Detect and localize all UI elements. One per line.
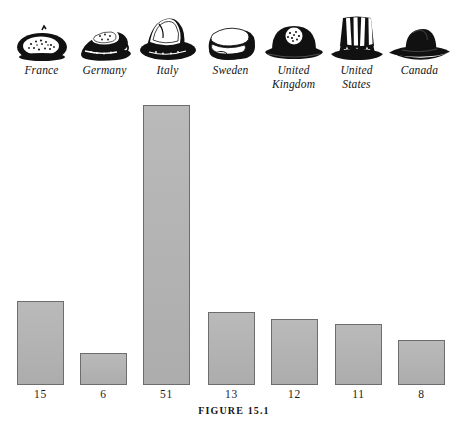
category-column-italy: Italy [136,0,199,100]
bar-italy [143,105,190,385]
figure-caption: FIGURE 15.1 [0,405,468,416]
flat-cap-hat-icon [199,2,262,64]
value-label-canada: 8 [390,386,453,402]
category-column-canada: Canada [388,0,451,100]
beret-hat-icon [10,2,73,64]
category-column-germany: Germany [73,0,136,100]
value-label-italy: 51 [135,386,198,402]
value-labels-row: 15 6 51 13 12 11 8 [0,386,468,406]
value-label-united-states: 11 [327,386,390,402]
uncle-sam-top-hat-icon [325,2,388,64]
bar-united-states [335,324,382,385]
value-label-sweden: 13 [200,386,263,402]
category-column-france: France [10,0,73,100]
mountie-hat-icon [388,2,451,64]
bar-chart-plot-area [0,100,468,385]
value-label-germany: 6 [72,386,135,402]
value-label-united-kingdom: 12 [263,386,326,402]
bar-canada [398,340,445,385]
category-column-sweden: Sweden [199,0,262,100]
bowler-hat-icon [262,2,325,64]
bar-united-kingdom [271,319,318,385]
category-column-united-states: United States [325,0,388,100]
bar-france [17,301,64,385]
bar-germany [80,353,127,385]
tyrolean-hat-icon [73,2,136,64]
category-label-canada: Canada [382,64,457,78]
fedora-hat-icon [136,2,199,64]
category-column-united-kingdom: United Kingdom [262,0,325,100]
figure-15-1: France [0,0,468,427]
bar-sweden [208,312,255,385]
category-header-strip: France [0,0,468,100]
value-label-france: 15 [9,386,72,402]
